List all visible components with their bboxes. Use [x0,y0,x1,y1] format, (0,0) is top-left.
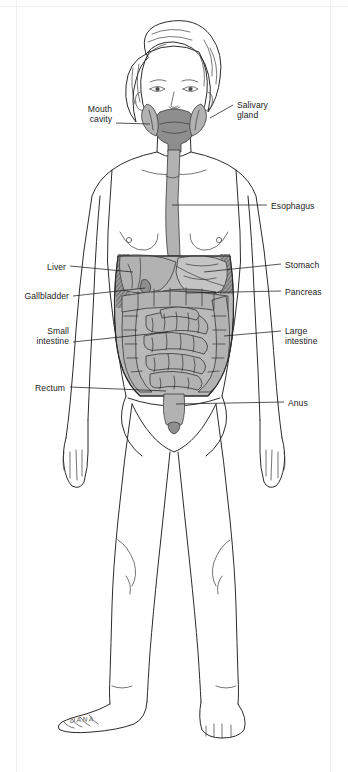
salivary-gland-right-organ [190,104,207,136]
leader-salivary-gland [210,105,233,118]
label-large-intestine: Large intestine [285,326,339,347]
legs-and-feet [58,404,245,738]
label-pancreas: Pancreas [285,287,341,297]
label-rectum: Rectum [20,383,65,393]
diagram-page: .ol{fill:none;stroke:#2b2b2b;stroke-widt… [0,0,348,772]
leader-anus [176,402,284,404]
anus-organ [168,422,180,434]
salivary-gland-left-organ [142,104,159,136]
label-stomach: Stomach [285,260,341,270]
small-intestine-organ [144,307,208,390]
label-anus: Anus [288,398,322,408]
abdominal-organ-group [114,254,233,434]
label-gallbladder: Gallbladder [13,291,69,301]
label-small-intestine: Small intestine [20,326,69,347]
esophagus-organ [166,150,180,256]
label-esophagus: Esophagus [271,201,337,211]
label-salivary-gland: Salivary gland [237,100,297,121]
mouth-cavity-organ [154,109,195,152]
label-mouth-cavity: Mouth cavity [68,104,112,125]
mouth-and-salivary-organs [142,104,207,152]
artist-signature: DANA [70,715,95,724]
label-liver: Liver [38,262,66,272]
